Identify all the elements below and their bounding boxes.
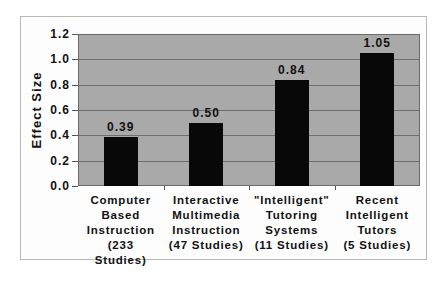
x-category-line: Multimedia: [163, 208, 249, 223]
x-category-line: Instruction: [78, 223, 164, 238]
y-tick-mark: [72, 186, 78, 187]
x-category-line: (5 Studies): [334, 238, 420, 253]
x-category-line: Recent: [334, 193, 420, 208]
x-category-label: RecentIntelligentTutors(5 Studies): [334, 193, 420, 253]
x-category-line: Computer: [78, 193, 164, 208]
x-category-line: Systems: [249, 223, 335, 238]
bar: [189, 123, 223, 186]
y-tick-label: 0.0: [30, 179, 70, 193]
bar: [104, 137, 138, 186]
x-tick-mark: [335, 186, 336, 190]
y-tick-label: 1.0: [30, 52, 70, 66]
x-tick-mark: [249, 186, 250, 190]
x-category-line: Studies): [78, 253, 164, 268]
x-category-label: ComputerBasedInstruction(233Studies): [78, 193, 164, 268]
x-category-label: InteractiveMultimediaInstruction(47 Stud…: [163, 193, 249, 253]
bar-value-label: 1.05: [347, 36, 407, 50]
x-category-line: (47 Studies): [163, 238, 249, 253]
x-tick-mark: [164, 186, 165, 190]
bar: [275, 80, 309, 186]
x-category-line: Interactive: [163, 193, 249, 208]
y-tick-label: 1.2: [30, 27, 70, 41]
x-category-line: Tutoring: [249, 208, 335, 223]
y-tick-label: 0.4: [30, 128, 70, 142]
bar: [360, 53, 394, 186]
y-tick-label: 0.8: [30, 78, 70, 92]
x-category-line: Based: [78, 208, 164, 223]
x-category-line: (233: [78, 238, 164, 253]
x-category-line: Instruction: [163, 223, 249, 238]
bar-value-label: 0.39: [91, 120, 151, 134]
y-tick-label: 0.6: [30, 103, 70, 117]
x-category-line: Intelligent: [334, 208, 420, 223]
x-category-line: Tutors: [334, 223, 420, 238]
x-category-line: (11 Studies): [249, 238, 335, 253]
bar-value-label: 0.84: [262, 63, 322, 77]
bar-value-label: 0.50: [176, 106, 236, 120]
x-category-label: "Intelligent"TutoringSystems(11 Studies): [249, 193, 335, 253]
x-category-line: "Intelligent": [249, 193, 335, 208]
y-tick-label: 0.2: [30, 154, 70, 168]
